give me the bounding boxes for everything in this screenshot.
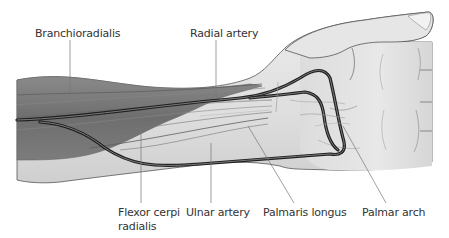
label-radial-artery: Radial artery (190, 27, 258, 40)
label-palmaris-longus: Palmaris longus (263, 206, 347, 219)
label-palmar-arch: Palmar arch (362, 206, 425, 219)
label-ulnar-artery: Ulnar artery (186, 206, 250, 219)
label-flexor-carpi-radialis-line2: radialis (118, 220, 156, 233)
label-flexor-carpi-radialis-line1: Flexor cerpi (118, 206, 180, 219)
label-brachioradialis: Branchioradialis (35, 27, 120, 40)
